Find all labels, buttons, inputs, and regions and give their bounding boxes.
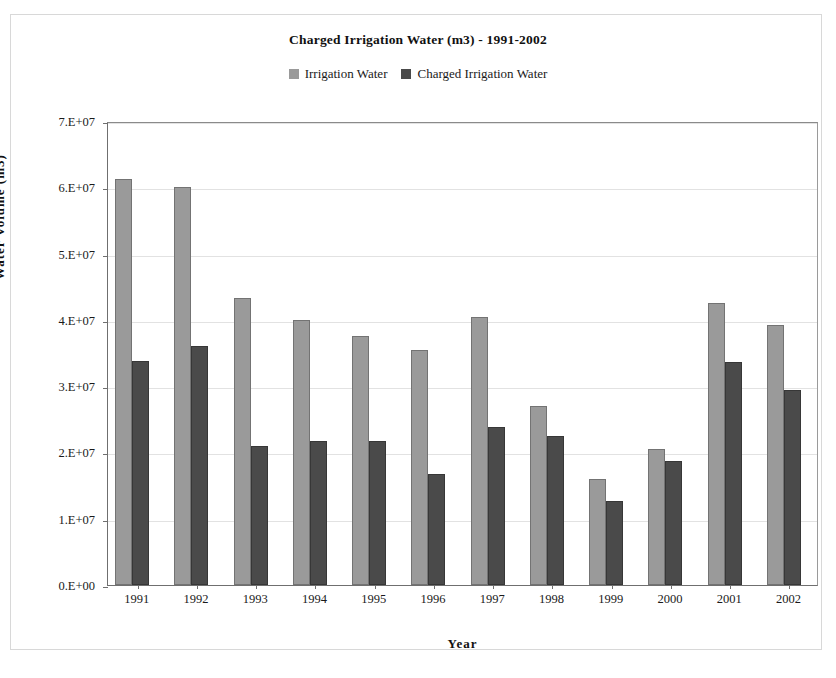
bar[interactable] <box>488 427 505 585</box>
y-tick-label: 1.E+07 <box>58 512 95 527</box>
bar-group <box>110 123 169 585</box>
x-tick-label: 1999 <box>598 592 623 607</box>
bar[interactable] <box>471 317 488 585</box>
bar-group <box>762 123 821 585</box>
bar[interactable] <box>293 320 310 585</box>
bar[interactable] <box>589 479 606 585</box>
x-tick-label: 2001 <box>717 592 742 607</box>
x-tick-mark <box>375 585 376 589</box>
x-tick-label: 1994 <box>302 592 327 607</box>
bar[interactable] <box>547 436 564 585</box>
y-tick-label: 0.E+00 <box>58 579 95 594</box>
y-tick-label: 4.E+07 <box>58 313 95 328</box>
legend-swatch-icon <box>401 69 411 79</box>
legend-swatch-icon <box>289 69 299 79</box>
bar[interactable] <box>428 474 445 585</box>
legend-item-charged-irrigation-water: Charged Irrigation Water <box>401 66 547 82</box>
bar-groups <box>108 123 817 585</box>
y-axis-tick-labels: 0.E+001.E+072.E+073.E+074.E+075.E+076.E+… <box>0 0 101 678</box>
x-tick-mark <box>612 585 613 589</box>
x-tick-label: 2000 <box>657 592 682 607</box>
bar[interactable] <box>648 449 665 585</box>
bar-group <box>584 123 643 585</box>
bar[interactable] <box>352 336 369 585</box>
bar[interactable] <box>251 446 268 585</box>
chart-legend: Irrigation Water Charged Irrigation Wate… <box>0 66 836 82</box>
bar[interactable] <box>411 350 428 585</box>
bar[interactable] <box>530 406 547 585</box>
x-tick-label: 1998 <box>539 592 564 607</box>
x-tick-mark <box>552 585 553 589</box>
plot-area <box>107 122 818 586</box>
bar[interactable] <box>784 390 801 585</box>
x-tick-mark <box>138 585 139 589</box>
x-tick-mark <box>671 585 672 589</box>
legend-label: Irrigation Water <box>305 66 388 82</box>
x-tick-label: 1992 <box>183 592 208 607</box>
legend-item-irrigation-water: Irrigation Water <box>289 66 388 82</box>
bar-group <box>229 123 288 585</box>
bar-group <box>703 123 762 585</box>
y-tick-label: 7.E+07 <box>58 115 95 130</box>
x-tick-mark <box>434 585 435 589</box>
bar[interactable] <box>132 361 149 585</box>
bar-group <box>466 123 525 585</box>
x-tick-mark <box>197 585 198 589</box>
bar[interactable] <box>725 362 742 585</box>
bar[interactable] <box>665 461 682 585</box>
bar-group <box>288 123 347 585</box>
bar[interactable] <box>310 441 327 586</box>
bar[interactable] <box>115 179 132 585</box>
chart-page: Charged Irrigation Water (m3) - 1991-200… <box>0 0 836 678</box>
bar[interactable] <box>191 346 208 585</box>
y-tick-label: 2.E+07 <box>58 446 95 461</box>
bar-group <box>347 123 406 585</box>
x-axis-title: Year <box>107 636 818 652</box>
x-tick-label: 1996 <box>420 592 445 607</box>
bar-group <box>643 123 702 585</box>
y-tick-label: 3.E+07 <box>58 380 95 395</box>
x-tick-label: 1995 <box>361 592 386 607</box>
x-tick-mark <box>256 585 257 589</box>
bar[interactable] <box>174 187 191 585</box>
x-tick-mark <box>315 585 316 589</box>
x-axis-tick-labels: 1991199219931994199519961997199819992000… <box>107 592 818 614</box>
bar[interactable] <box>767 325 784 586</box>
bar[interactable] <box>708 303 725 585</box>
x-tick-mark <box>789 585 790 589</box>
x-tick-mark <box>730 585 731 589</box>
legend-label: Charged Irrigation Water <box>417 66 547 82</box>
y-tick-mark <box>103 587 108 588</box>
x-tick-label: 2002 <box>776 592 801 607</box>
x-tick-mark <box>493 585 494 589</box>
bar-group <box>169 123 228 585</box>
x-tick-label: 1993 <box>243 592 268 607</box>
x-tick-label: 1997 <box>480 592 505 607</box>
bar[interactable] <box>234 298 251 585</box>
chart-title: Charged Irrigation Water (m3) - 1991-200… <box>0 32 836 48</box>
bar[interactable] <box>369 441 386 586</box>
x-tick-label: 1991 <box>124 592 149 607</box>
bar-group <box>406 123 465 585</box>
bar[interactable] <box>606 501 623 585</box>
y-tick-label: 5.E+07 <box>58 247 95 262</box>
bar-group <box>525 123 584 585</box>
y-tick-label: 6.E+07 <box>58 181 95 196</box>
